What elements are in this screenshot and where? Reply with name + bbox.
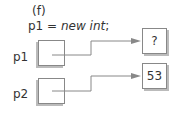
arrow-p2: [52, 76, 132, 91]
arrowhead-p1: [131, 38, 141, 44]
arrow-p1: [52, 41, 132, 55]
arrowhead-p2: [131, 73, 141, 79]
arrows: [0, 0, 178, 120]
